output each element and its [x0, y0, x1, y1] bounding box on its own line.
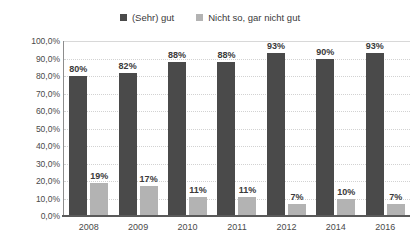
bar-value-label: 7% [389, 192, 402, 202]
legend-swatch-icon [196, 14, 203, 21]
bar-group: 80%19% [64, 41, 113, 216]
bar-value-label: 80% [69, 64, 87, 74]
bar-rect[interactable] [267, 53, 285, 216]
x-axis-tick-labels: 2008200920102011201220142016 [64, 222, 410, 232]
x-axis-tick-label: 2008 [64, 222, 113, 232]
x-axis-tick-label: 2016 [361, 222, 410, 232]
bar-value-label: 93% [366, 41, 384, 51]
bar-value-label: 19% [90, 171, 108, 181]
y-axis-tick-label: 100,0% [18, 36, 60, 46]
bar-positive[interactable]: 82% [119, 41, 137, 216]
bar-chart: (Sehr) gutNicht so, gar nicht gut Anteil… [0, 0, 420, 249]
bar-group: 90%10% [311, 41, 360, 216]
bar-rect[interactable] [217, 62, 235, 216]
bar-positive[interactable]: 88% [168, 41, 186, 216]
bar-rect[interactable] [168, 62, 186, 216]
legend-swatch-icon [120, 14, 127, 21]
bar-rect[interactable] [337, 199, 355, 217]
bar-group: 82%17% [113, 41, 162, 216]
y-axis-tick-label: 90,0% [18, 54, 60, 64]
bar-positive[interactable]: 88% [217, 41, 235, 216]
x-axis-tick-label: 2009 [113, 222, 162, 232]
chart-legend: (Sehr) gutNicht so, gar nicht gut [0, 12, 420, 23]
bar-value-label: 11% [239, 185, 257, 195]
bar-rect[interactable] [316, 59, 334, 217]
bar-rect[interactable] [90, 183, 108, 216]
y-axis-tick-label: 70,0% [18, 89, 60, 99]
bar-group: 88%11% [212, 41, 261, 216]
bar-negative[interactable]: 7% [387, 41, 405, 216]
y-axis-tick-label: 50,0% [18, 124, 60, 134]
bar-positive[interactable]: 93% [366, 41, 384, 216]
x-axis-tick-label: 2011 [212, 222, 261, 232]
bar-rect[interactable] [140, 186, 158, 216]
bar-rect[interactable] [189, 197, 207, 216]
y-axis-tick-label: 40,0% [18, 141, 60, 151]
bar-groups: 80%19%82%17%88%11%88%11%93%7%90%10%93%7% [64, 41, 410, 216]
bar-value-label: 11% [189, 185, 207, 195]
bar-group: 93%7% [262, 41, 311, 216]
bar-value-label: 88% [217, 50, 235, 60]
bar-negative[interactable]: 11% [238, 41, 256, 216]
bar-negative[interactable]: 19% [90, 41, 108, 216]
bar-value-label: 7% [290, 192, 303, 202]
legend-item-label: (Sehr) gut [132, 12, 174, 23]
legend-item-label: Nicht so, gar nicht gut [208, 12, 300, 23]
x-axis-tick-label: 2012 [262, 222, 311, 232]
bar-rect[interactable] [69, 76, 87, 216]
bar-positive[interactable]: 80% [69, 41, 87, 216]
bar-rect[interactable] [119, 73, 137, 217]
y-axis-tick-labels: 0,0%10,0%20,0%30,0%40,0%50,0%60,0%70,0%8… [18, 41, 60, 216]
bar-value-label: 88% [168, 50, 186, 60]
x-axis-tick-label: 2010 [163, 222, 212, 232]
bar-positive[interactable]: 90% [316, 41, 334, 216]
y-axis-tick-label: 30,0% [18, 159, 60, 169]
y-axis-tick-label: 0,0% [18, 211, 60, 221]
bar-negative[interactable]: 10% [337, 41, 355, 216]
plot-area: 80%19%82%17%88%11%88%11%93%7%90%10%93%7% [64, 41, 410, 216]
bar-value-label: 10% [337, 187, 355, 197]
bar-value-label: 17% [140, 174, 158, 184]
bar-group: 88%11% [163, 41, 212, 216]
bar-positive[interactable]: 93% [267, 41, 285, 216]
x-axis-line [62, 215, 410, 217]
bar-value-label: 82% [119, 61, 137, 71]
y-axis-tick-label: 20,0% [18, 176, 60, 186]
x-axis-tick-label: 2014 [311, 222, 360, 232]
y-axis-line [63, 41, 64, 216]
bar-group: 93%7% [361, 41, 410, 216]
y-axis-tick-label: 10,0% [18, 194, 60, 204]
legend-item-0[interactable]: (Sehr) gut [120, 12, 174, 23]
legend-item-1[interactable]: Nicht so, gar nicht gut [196, 12, 300, 23]
bar-negative[interactable]: 17% [140, 41, 158, 216]
bar-value-label: 90% [316, 47, 334, 57]
bar-rect[interactable] [238, 197, 256, 216]
bar-rect[interactable] [366, 53, 384, 216]
bar-negative[interactable]: 11% [189, 41, 207, 216]
bar-negative[interactable]: 7% [288, 41, 306, 216]
y-axis-tick-label: 80,0% [18, 71, 60, 81]
bar-value-label: 93% [267, 41, 285, 51]
y-axis-tick-label: 60,0% [18, 106, 60, 116]
